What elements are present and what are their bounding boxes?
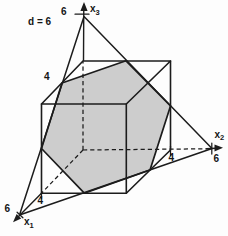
x3-axis-label-subscript: 3 bbox=[96, 8, 100, 17]
x2-axis-line bbox=[207, 148, 216, 149]
x2-value-6-label: 6 bbox=[214, 154, 220, 164]
x1-axis-label: x1 bbox=[24, 217, 34, 227]
x3-axis-label-base: x bbox=[90, 3, 96, 14]
x1-axis-label-base: x bbox=[24, 216, 30, 227]
x3-arrowhead-icon bbox=[80, 2, 87, 11]
x1-value-6-label: 6 bbox=[5, 204, 11, 214]
x2-value-4-label: 4 bbox=[169, 153, 175, 163]
plane-cube-intersection-diagram: d = 6 6 x3 4 x2 4 6 4 6 x1 bbox=[0, 0, 228, 236]
x3-axis-label: x3 bbox=[90, 4, 100, 14]
x2-axis-label: x2 bbox=[215, 130, 225, 140]
x2-axis-label-subscript: 2 bbox=[220, 133, 224, 142]
x1-axis-label-subscript: 1 bbox=[30, 221, 34, 230]
diagram-canvas bbox=[0, 0, 228, 236]
x1-value-4-label: 4 bbox=[38, 196, 44, 206]
x2-arrowhead-icon bbox=[215, 145, 224, 152]
plane-equation-label: d = 6 bbox=[28, 17, 51, 27]
x3-value-6-label: 6 bbox=[61, 7, 67, 17]
x3-value-4-label: 4 bbox=[44, 72, 50, 82]
